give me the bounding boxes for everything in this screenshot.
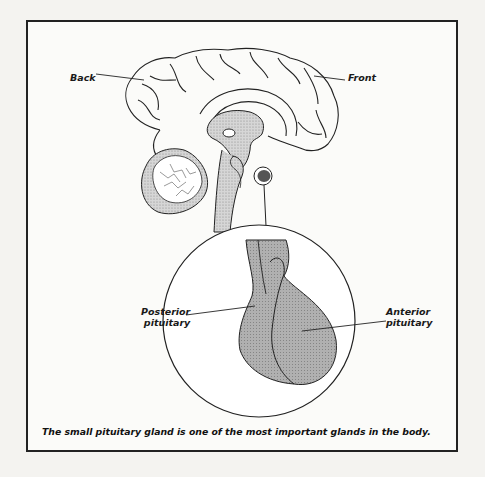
label-anterior-line1: Anterior [386,306,432,317]
label-posterior-pituitary: Posterior pituitary [141,306,190,328]
label-anterior-line2: pituitary [386,317,432,328]
figure-caption: The small pituitary gland is one of the … [42,426,431,437]
label-front: Front [348,72,376,83]
pituitary-small [254,167,272,185]
cerebellum [142,149,208,214]
label-anterior-pituitary: Anterior pituitary [386,306,432,328]
label-back: Back [70,72,96,83]
brain-stem [214,150,243,232]
label-posterior-line2: pituitary [141,317,190,328]
label-posterior-line1: Posterior [141,306,190,317]
